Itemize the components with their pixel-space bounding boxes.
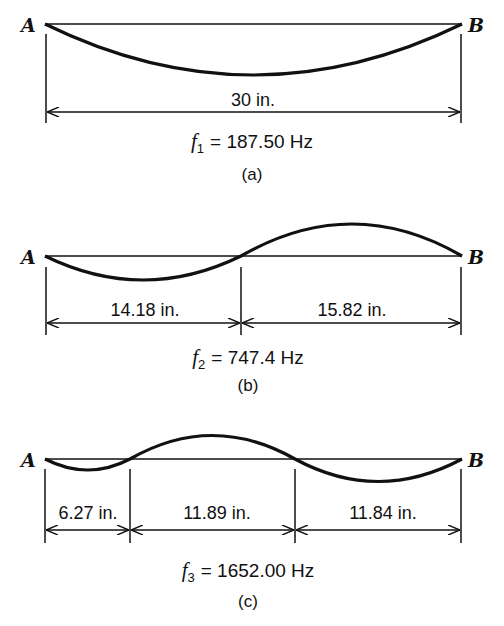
dimension-label: 11.84 in. [349,503,417,523]
panel-caption: (b) [238,376,259,395]
frequency-label: f3= 1652.00 Hz [182,558,315,585]
end-label-a-right: B [467,14,484,36]
panel-c: A B 6.27 in. 11.89 in. 11.84 in. f3= 165… [19,436,484,612]
end-label-b-right: B [467,246,484,268]
frequency-label: f1= 187.50 Hz [191,129,313,156]
mode-shape-curve [45,224,462,280]
mode-shapes-diagram: A B 30 in. f1= 187.50 Hz (a) A B 14.18 i… [0,0,504,626]
end-label-b-left: A [19,246,36,268]
frequency-label: f2= 747.4 Hz [192,345,304,372]
panel-b: A B 14.18 in. 15.82 in. f2= 747.4 Hz (b) [19,224,484,395]
panel-a: A B 30 in. f1= 187.50 Hz (a) [19,14,484,184]
dimension-label: 15.82 in. [317,300,386,320]
end-label-a-left: A [19,14,36,36]
dimension-label: 6.27 in. [58,503,117,523]
panel-caption: (c) [238,592,258,611]
mode-shape-curve [45,24,462,75]
end-label-c-left: A [19,449,36,471]
end-label-c-right: B [467,449,484,471]
dimension-label: 14.18 in. [110,300,179,320]
dimension-label: 30 in. [231,90,275,110]
dimension-label: 11.89 in. [183,503,251,523]
panel-caption: (a) [242,165,263,184]
